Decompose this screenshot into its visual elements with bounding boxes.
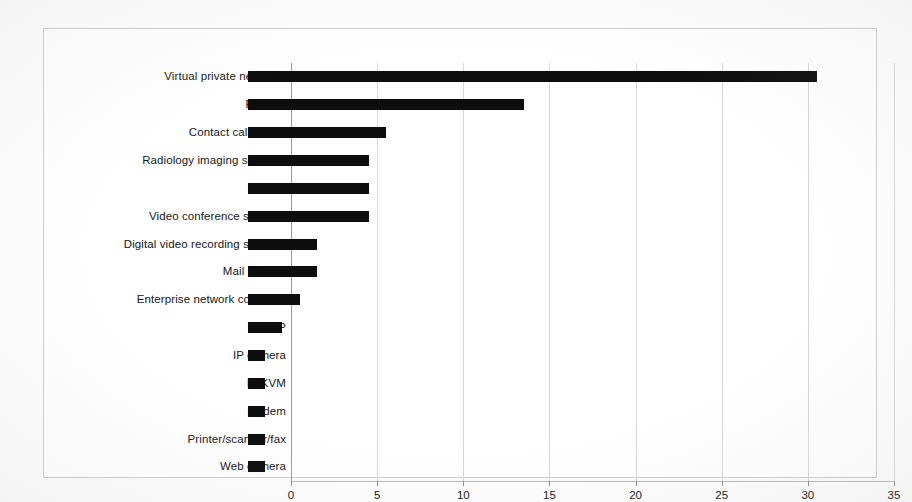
x-tick-label: 30 bbox=[801, 488, 814, 502]
bar bbox=[248, 211, 369, 222]
x-tick-0 bbox=[291, 481, 292, 486]
x-tick-label: 25 bbox=[715, 488, 728, 502]
bar bbox=[248, 155, 369, 166]
bar-track bbox=[248, 202, 851, 230]
x-tick-label: 10 bbox=[457, 488, 470, 502]
bar-track bbox=[248, 230, 851, 258]
x-tick-label: 0 bbox=[288, 488, 294, 502]
bar bbox=[248, 183, 369, 194]
x-axis-line bbox=[291, 481, 895, 482]
bar-track bbox=[248, 63, 851, 91]
x-tick-label: 20 bbox=[629, 488, 642, 502]
chart-page: Virtual private networksFirewallContact … bbox=[0, 0, 912, 502]
bar-track bbox=[248, 425, 851, 453]
bar bbox=[248, 99, 524, 110]
bar bbox=[248, 350, 265, 361]
x-axis-tick-labels: 05101520253035 bbox=[44, 488, 878, 502]
chart-frame: Virtual private networksFirewallContact … bbox=[43, 28, 877, 478]
bar-track bbox=[248, 314, 851, 342]
bar bbox=[248, 294, 300, 305]
bar-row: Enterprise network controller bbox=[44, 286, 878, 314]
bar-track bbox=[248, 147, 851, 175]
bar bbox=[248, 127, 386, 138]
bar-track bbox=[248, 258, 851, 286]
x-tick-25 bbox=[722, 481, 723, 486]
x-tick-35 bbox=[894, 481, 895, 486]
bar bbox=[248, 434, 265, 445]
gridline-35 bbox=[894, 63, 895, 481]
bar-rows: Virtual private networksFirewallContact … bbox=[44, 63, 878, 481]
bar-row: Router bbox=[44, 174, 878, 202]
bar-row: Printer/scanner/fax bbox=[44, 425, 878, 453]
x-tick-30 bbox=[808, 481, 809, 486]
bar-row: Video conference systems bbox=[44, 202, 878, 230]
bar bbox=[248, 266, 317, 277]
bar-row: Contact call centre bbox=[44, 119, 878, 147]
bar-track bbox=[248, 286, 851, 314]
x-tick-15 bbox=[549, 481, 550, 486]
bar-row: Modem bbox=[44, 397, 878, 425]
bar-track bbox=[248, 453, 851, 481]
bar-row: IP KVM bbox=[44, 369, 878, 397]
bar bbox=[248, 406, 265, 417]
x-tick-label: 15 bbox=[543, 488, 556, 502]
x-tick-label: 5 bbox=[374, 488, 380, 502]
x-tick-10 bbox=[463, 481, 464, 486]
bar-row: Radiology imaging software bbox=[44, 147, 878, 175]
bar bbox=[248, 461, 265, 472]
bar-track bbox=[248, 91, 851, 119]
x-tick-label: 35 bbox=[888, 488, 901, 502]
bar bbox=[248, 71, 817, 82]
bar-row: VoIP bbox=[44, 314, 878, 342]
bar-row: Mail servers bbox=[44, 258, 878, 286]
bar-track bbox=[248, 397, 851, 425]
bar-row: Virtual private networks bbox=[44, 63, 878, 91]
bar-track bbox=[248, 342, 851, 370]
bar-row: Digital video recording systems bbox=[44, 230, 878, 258]
bar-row: Web camera bbox=[44, 453, 878, 481]
bar bbox=[248, 239, 317, 250]
bar-track bbox=[248, 119, 851, 147]
bar-row: IP camera bbox=[44, 342, 878, 370]
bar bbox=[248, 378, 265, 389]
x-tick-20 bbox=[636, 481, 637, 486]
bar-track bbox=[248, 369, 851, 397]
x-tick-5 bbox=[377, 481, 378, 486]
bar bbox=[248, 322, 282, 333]
bar-row: Firewall bbox=[44, 91, 878, 119]
bar-track bbox=[248, 174, 851, 202]
